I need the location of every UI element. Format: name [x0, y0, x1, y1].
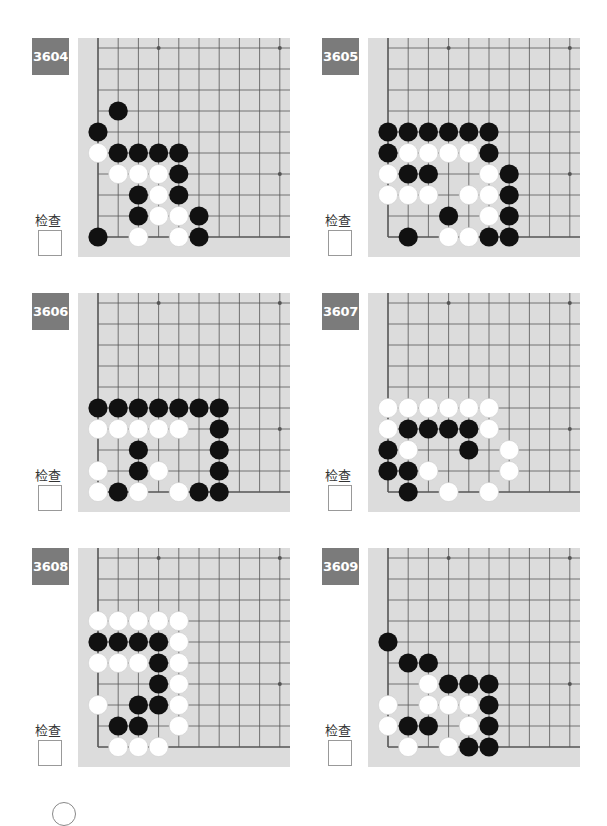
white-stone	[399, 737, 418, 756]
black-stone	[210, 398, 229, 417]
check-checkbox[interactable]	[328, 740, 352, 766]
check-checkbox[interactable]	[38, 230, 62, 256]
black-stone	[189, 206, 208, 225]
black-stone	[129, 695, 148, 714]
black-stone	[378, 440, 397, 459]
black-stone	[129, 461, 148, 480]
white-stone	[378, 185, 397, 204]
white-stone	[169, 611, 188, 630]
black-stone	[500, 185, 519, 204]
black-stone	[439, 419, 458, 438]
white-stone	[149, 611, 168, 630]
white-stone	[399, 398, 418, 417]
black-stone	[129, 143, 148, 162]
black-stone	[109, 398, 128, 417]
black-stone	[189, 398, 208, 417]
white-stone	[459, 695, 478, 714]
black-stone	[149, 143, 168, 162]
black-stone	[399, 164, 418, 183]
white-stone	[169, 206, 188, 225]
black-stone	[479, 695, 498, 714]
white-stone	[399, 143, 418, 162]
white-stone	[169, 674, 188, 693]
problem-panel-3605: 3605 检查	[322, 38, 607, 268]
black-stone	[129, 185, 148, 204]
white-stone	[169, 227, 188, 246]
check-label: 检查	[325, 210, 351, 229]
check-checkbox[interactable]	[38, 740, 62, 766]
black-stone	[459, 122, 478, 141]
black-stone	[479, 143, 498, 162]
black-stone	[169, 185, 188, 204]
go-board	[368, 548, 580, 767]
problem-number-badge: 3608	[32, 548, 69, 585]
black-stone	[439, 122, 458, 141]
check-checkbox[interactable]	[328, 230, 352, 256]
black-stone	[439, 206, 458, 225]
white-stone	[419, 674, 438, 693]
white-stone	[399, 440, 418, 459]
white-stone	[439, 398, 458, 417]
white-stone	[439, 482, 458, 501]
black-stone	[459, 440, 478, 459]
white-stone	[439, 227, 458, 246]
black-stone	[169, 143, 188, 162]
white-stone	[88, 653, 107, 672]
white-stone	[109, 611, 128, 630]
go-board	[78, 548, 290, 767]
check-checkbox[interactable]	[38, 485, 62, 511]
white-stone	[500, 440, 519, 459]
white-stone	[169, 632, 188, 651]
black-stone	[378, 143, 397, 162]
white-stone	[129, 653, 148, 672]
white-stone	[149, 185, 168, 204]
black-stone	[439, 674, 458, 693]
problem-number-badge: 3606	[32, 293, 69, 330]
problem-number-badge: 3604	[32, 38, 69, 75]
white-stone	[479, 164, 498, 183]
black-stone	[399, 716, 418, 735]
white-stone	[129, 164, 148, 183]
white-stone	[459, 398, 478, 417]
white-stone	[479, 206, 498, 225]
black-stone	[399, 482, 418, 501]
check-checkbox[interactable]	[328, 485, 352, 511]
white-stone	[419, 461, 438, 480]
check-label: 检查	[325, 720, 351, 739]
black-stone	[479, 674, 498, 693]
black-stone	[378, 122, 397, 141]
white-stone	[129, 419, 148, 438]
white-stone	[378, 716, 397, 735]
problem-panel-3606: 3606 检查	[32, 293, 322, 523]
black-stone	[378, 632, 397, 651]
black-stone	[88, 122, 107, 141]
black-stone	[149, 632, 168, 651]
black-stone	[479, 716, 498, 735]
go-board	[78, 38, 290, 257]
white-stone	[419, 695, 438, 714]
black-stone	[149, 674, 168, 693]
problem-number-badge: 3607	[322, 293, 359, 330]
black-stone	[129, 398, 148, 417]
white-stone	[378, 398, 397, 417]
black-stone	[210, 482, 229, 501]
black-stone	[169, 398, 188, 417]
black-stone	[109, 101, 128, 120]
black-stone	[500, 206, 519, 225]
white-stone	[479, 185, 498, 204]
black-stone	[169, 164, 188, 183]
white-stone	[109, 419, 128, 438]
white-stone	[109, 653, 128, 672]
black-stone	[109, 716, 128, 735]
white-stone	[419, 398, 438, 417]
white-stone	[149, 419, 168, 438]
white-stone	[109, 164, 128, 183]
black-stone	[210, 461, 229, 480]
black-stone	[399, 419, 418, 438]
white-stone	[149, 164, 168, 183]
white-stone	[459, 716, 478, 735]
white-stone	[419, 185, 438, 204]
go-board	[368, 293, 580, 512]
black-stone	[189, 227, 208, 246]
white-stone	[439, 143, 458, 162]
